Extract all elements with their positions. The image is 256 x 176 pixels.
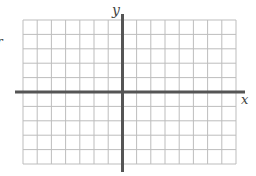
coordinate-plane: r y x bbox=[0, 0, 256, 176]
y-axis-label: y bbox=[112, 3, 120, 17]
clipped-text-fragment: r bbox=[0, 36, 3, 48]
grid-canvas bbox=[0, 0, 256, 176]
x-axis-label: x bbox=[241, 93, 248, 106]
